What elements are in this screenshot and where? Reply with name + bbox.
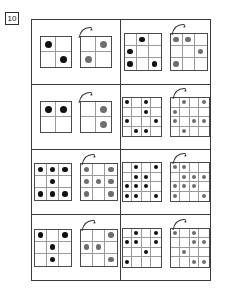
grid-cell: [190, 182, 200, 192]
puzzle-cell-8: [121, 215, 210, 280]
dot-marker: [125, 194, 129, 198]
grid-cell: [171, 58, 183, 70]
grid-cell: [105, 188, 117, 200]
grid-cell: [171, 34, 183, 46]
dot-marker: [84, 167, 90, 173]
question-number: 10: [8, 15, 17, 23]
grid-cell: [132, 257, 142, 267]
dot-marker: [185, 37, 191, 43]
dot-marker: [154, 165, 158, 169]
grid-cell: [105, 242, 117, 254]
grid-cell: [190, 229, 200, 239]
grid-cell: [180, 248, 190, 258]
puzzle-pair: [122, 162, 210, 202]
grid-cell: [199, 257, 209, 267]
grid-cell: [195, 58, 207, 70]
dot-marker: [50, 244, 56, 250]
grid-cell: [199, 182, 209, 192]
grid-cell: [96, 102, 111, 117]
dot-marker: [45, 106, 52, 113]
grid-cell: [149, 46, 161, 58]
dot-marker: [202, 194, 206, 198]
grid-cell: [199, 98, 209, 108]
answer-grid: [80, 101, 112, 133]
dot-marker: [182, 175, 186, 179]
grid-cell: [171, 108, 181, 118]
grid-cell: [81, 37, 96, 52]
dot-marker: [100, 106, 107, 113]
grid-cell: [56, 37, 71, 52]
grid-cell: [171, 127, 181, 137]
grid-cell: [56, 102, 71, 117]
grid-cell: [190, 163, 200, 173]
grid-cell: [132, 163, 142, 173]
dot-marker: [62, 191, 68, 197]
grid-cell: [183, 34, 195, 46]
grid-cell: [123, 229, 133, 239]
dot-marker: [202, 100, 206, 104]
grid-cell: [199, 238, 209, 248]
grid-cell: [132, 108, 142, 118]
puzzle-cell-3: [32, 85, 121, 150]
dot-marker: [154, 194, 158, 198]
puzzle-frame: [31, 19, 211, 281]
dot-marker: [38, 232, 44, 238]
dot-marker: [144, 110, 148, 114]
grid-cell: [59, 230, 71, 242]
grid-cell: [180, 163, 190, 173]
grid-cell: [59, 176, 71, 188]
source-grid: [34, 229, 72, 267]
dot-marker: [108, 179, 114, 185]
grid-cell: [190, 238, 200, 248]
grid-cell: [105, 164, 117, 176]
source-grid: [122, 97, 162, 137]
source-grid: [34, 163, 72, 201]
grid-cell: [199, 229, 209, 239]
grid-cell: [137, 58, 149, 70]
grid-cell: [171, 182, 181, 192]
grid-cell: [171, 46, 183, 58]
grid-cell: [132, 248, 142, 258]
dot-marker: [62, 232, 68, 238]
grid-cell: [199, 192, 209, 202]
grid-cell: [47, 230, 59, 242]
grid-cell: [199, 173, 209, 183]
grid-cell: [132, 98, 142, 108]
grid-cell: [47, 254, 59, 266]
grid-cell: [142, 98, 152, 108]
grid-cell: [180, 127, 190, 137]
grid-cell: [81, 254, 93, 266]
grid-cell: [132, 238, 142, 248]
grid-cell: [93, 176, 105, 188]
puzzle-pair: [34, 229, 118, 267]
dot-marker: [173, 165, 177, 169]
grid-cell: [41, 117, 56, 132]
dot-marker: [192, 240, 196, 244]
grid-cell: [151, 173, 161, 183]
grid-cell: [59, 254, 71, 266]
grid-cell: [180, 229, 190, 239]
grid-cell: [41, 37, 56, 52]
grid-cell: [41, 102, 56, 117]
dot-marker: [50, 179, 56, 185]
dot-marker: [62, 167, 68, 173]
grid-cell: [132, 173, 142, 183]
grid-cell: [132, 182, 142, 192]
dot-marker: [144, 184, 148, 188]
dot-marker: [173, 119, 177, 123]
dot-marker: [134, 165, 138, 169]
puzzle-cell-6: [121, 150, 210, 215]
grid-cell: [171, 163, 181, 173]
puzzle-pair: [122, 228, 210, 268]
grid-cell: [123, 108, 133, 118]
grid-cell: [123, 192, 133, 202]
grid-cell: [180, 257, 190, 267]
dot-marker: [173, 110, 177, 114]
grid-cell: [59, 164, 71, 176]
grid-cell: [151, 108, 161, 118]
grid-cell: [142, 108, 152, 118]
grid-cell: [180, 98, 190, 108]
grid-cell: [132, 192, 142, 202]
dot-marker: [50, 167, 56, 173]
grid-cell: [190, 127, 200, 137]
